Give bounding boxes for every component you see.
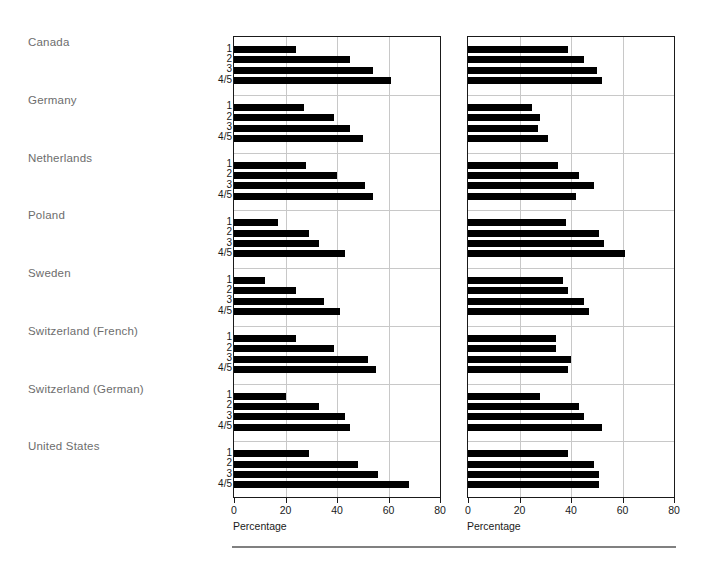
bar-left-panel-switzerland-french-2	[234, 345, 334, 352]
bar-left-panel-switzerland-french-3	[234, 356, 368, 363]
x-tick-label-20: 20	[514, 504, 526, 516]
x-tick-20	[286, 498, 287, 503]
bar-left-panel-canada-1	[234, 46, 296, 53]
bar-right-panel-poland-2	[468, 230, 599, 237]
rating-tick-label-4-5: 4/5	[218, 421, 232, 431]
x-tick-label-40: 40	[565, 504, 577, 516]
x-tick-0	[468, 498, 469, 503]
right-x-axis: 020406080	[467, 498, 675, 520]
bar-left-panel-sweden-3	[234, 298, 324, 305]
bar-right-panel-netherlands-1	[468, 162, 558, 169]
x-tick-label-20: 20	[280, 504, 292, 516]
bar-right-panel-germany-3	[468, 125, 538, 132]
bar-right-panel-sweden-3	[468, 298, 584, 305]
group-separator	[234, 268, 440, 269]
bar-left-panel-sweden-2	[234, 287, 296, 294]
rating-tick-label-2: 2	[226, 169, 232, 179]
bar-left-panel-sweden-4-5	[234, 308, 340, 315]
bar-right-panel-germany-4-5	[468, 135, 548, 142]
bar-right-panel-canada-2	[468, 56, 584, 63]
bar-left-panel-switzerland-german-1	[234, 393, 286, 400]
gridline-x-60	[623, 37, 624, 497]
x-tick-0	[234, 498, 235, 503]
bar-right-panel-switzerland-french-2	[468, 345, 556, 352]
group-separator	[234, 153, 440, 154]
rating-tick-label-1: 1	[226, 332, 232, 342]
bar-left-panel-netherlands-1	[234, 162, 306, 169]
rating-tick-label-4-5: 4/5	[218, 190, 232, 200]
bar-left-panel-sweden-1	[234, 277, 265, 284]
country-label-switzerland-german: Switzerland (German)	[28, 383, 144, 395]
bar-left-panel-united-states-3	[234, 471, 378, 478]
rating-tick-label-1: 1	[226, 101, 232, 111]
group-separator	[468, 95, 674, 96]
left-x-axis: 020406080	[233, 498, 441, 520]
bar-right-panel-netherlands-2	[468, 172, 579, 179]
rating-tick-column: 1234/51234/51234/51234/51234/51234/51234…	[196, 0, 232, 505]
country-label-canada: Canada	[28, 36, 69, 48]
bar-right-panel-switzerland-french-3	[468, 356, 571, 363]
x-tick-label-40: 40	[331, 504, 343, 516]
footer-rule	[232, 546, 676, 548]
country-label-germany: Germany	[28, 94, 77, 106]
rating-tick-label-4-5: 4/5	[218, 306, 232, 316]
bar-right-panel-canada-3	[468, 67, 597, 74]
rating-tick-label-1: 1	[226, 44, 232, 54]
bar-right-panel-poland-4-5	[468, 250, 625, 257]
bar-left-panel-switzerland-french-1	[234, 335, 296, 342]
x-tick-20	[520, 498, 521, 503]
bar-right-panel-switzerland-german-4-5	[468, 424, 602, 431]
rating-tick-label-2: 2	[226, 400, 232, 410]
bar-left-panel-canada-2	[234, 56, 350, 63]
bar-left-panel-united-states-2	[234, 461, 358, 468]
bar-right-panel-united-states-3	[468, 471, 599, 478]
group-separator	[468, 153, 674, 154]
bar-left-panel-poland-4-5	[234, 250, 345, 257]
group-separator	[468, 384, 674, 385]
bar-right-panel-switzerland-german-2	[468, 403, 579, 410]
gridline-x-60	[389, 37, 390, 497]
group-separator	[468, 210, 674, 211]
bar-right-panel-switzerland-german-3	[468, 413, 584, 420]
bar-left-panel-germany-1	[234, 104, 304, 111]
bar-right-panel-netherlands-4-5	[468, 193, 576, 200]
bar-right-panel-united-states-2	[468, 461, 594, 468]
bar-left-panel-poland-1	[234, 219, 278, 226]
right-plot-panel	[467, 36, 675, 498]
bar-right-panel-united-states-1	[468, 450, 568, 457]
bar-right-panel-switzerland-french-4-5	[468, 366, 568, 373]
country-label-column: CanadaGermanyNetherlandsPolandSwedenSwit…	[0, 0, 215, 505]
rating-tick-label-3: 3	[226, 295, 232, 305]
left-x-axis-title: Percentage	[233, 520, 287, 532]
bar-left-panel-netherlands-3	[234, 182, 365, 189]
bar-right-panel-switzerland-french-1	[468, 335, 556, 342]
x-tick-label-80: 80	[434, 504, 446, 516]
rating-tick-label-4-5: 4/5	[218, 248, 232, 258]
x-tick-40	[337, 498, 338, 503]
rating-tick-label-3: 3	[226, 64, 232, 74]
group-separator	[234, 326, 440, 327]
rating-tick-label-4-5: 4/5	[218, 132, 232, 142]
bar-right-panel-sweden-1	[468, 277, 563, 284]
country-label-sweden: Sweden	[28, 267, 71, 279]
x-tick-label-0: 0	[465, 504, 471, 516]
bar-right-panel-poland-3	[468, 240, 604, 247]
rating-tick-label-2: 2	[226, 458, 232, 468]
rating-tick-label-4-5: 4/5	[218, 479, 232, 489]
bar-left-panel-germany-2	[234, 114, 334, 121]
rating-tick-label-1: 1	[226, 275, 232, 285]
bar-left-panel-canada-3	[234, 67, 373, 74]
bar-left-panel-poland-2	[234, 230, 309, 237]
country-label-netherlands: Netherlands	[28, 152, 92, 164]
group-separator	[234, 441, 440, 442]
x-tick-60	[389, 498, 390, 503]
bar-left-panel-germany-4-5	[234, 135, 363, 142]
bar-left-panel-switzerland-german-3	[234, 413, 345, 420]
bar-right-panel-netherlands-3	[468, 182, 594, 189]
bar-left-panel-switzerland-french-4-5	[234, 366, 376, 373]
right-x-axis-title: Percentage	[467, 520, 521, 532]
x-tick-label-60: 60	[617, 504, 629, 516]
rating-tick-label-4-5: 4/5	[218, 75, 232, 85]
group-separator	[234, 384, 440, 385]
x-tick-80	[674, 498, 675, 503]
